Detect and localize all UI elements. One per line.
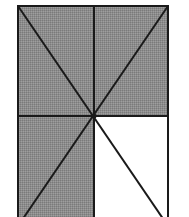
unshaded-quadrant-bottom-right (94, 116, 168, 217)
quadrant-diagram (0, 0, 189, 217)
center-point (92, 114, 97, 119)
